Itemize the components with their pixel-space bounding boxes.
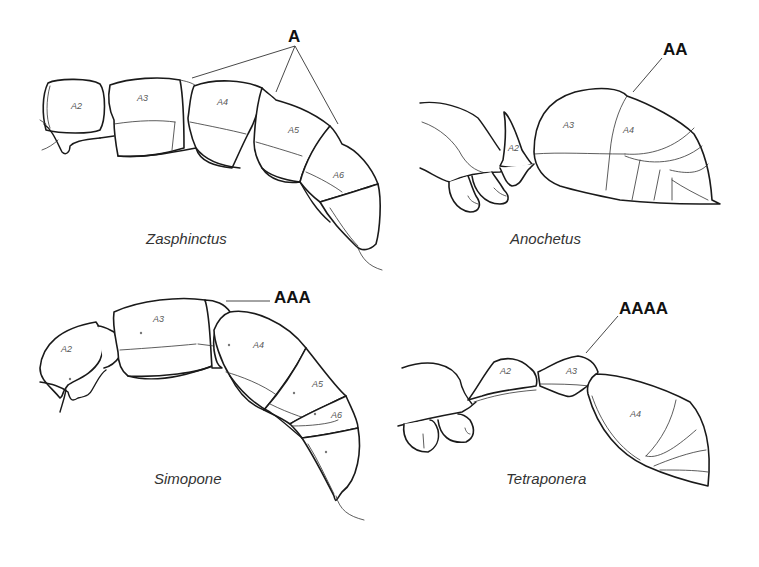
annotation-label-a: A	[288, 27, 300, 46]
segment-label: A3	[152, 314, 164, 324]
segment-label: A3	[136, 93, 148, 103]
annotation-label-aaa: AAA	[274, 288, 311, 307]
panel-tetraponera: AAAA A2 A3 A4 Tetraponera	[398, 299, 709, 487]
segment-a4-shape	[188, 81, 262, 168]
coxa-shape	[404, 420, 439, 452]
figure-canvas: A A2 A3 A4 A5 A6 Zasphinctus AA A2 A3 A4	[0, 0, 759, 567]
segment-a4-shape	[587, 374, 709, 486]
segment-a7-shape	[302, 428, 359, 500]
annotation-label-aa: AA	[663, 40, 688, 59]
gaster-shape	[534, 89, 720, 204]
segment-label: A4	[216, 97, 228, 107]
panel-zasphinctus: A A2 A3 A4 A5 A6 Zasphinctus	[40, 27, 382, 270]
segment-label: A3	[565, 366, 577, 376]
segment-label: A6	[332, 170, 344, 180]
segment-label: A3	[562, 120, 574, 130]
genus-label-simopone: Simopone	[154, 470, 222, 487]
segment-label: A4	[252, 340, 264, 350]
segment-label: A5	[311, 379, 324, 389]
segment-label: A4	[629, 409, 641, 419]
genus-label-tetraponera: Tetraponera	[506, 470, 586, 487]
panel-simopone: AAA A2 A3 A4 A5 A6 Simopone	[40, 288, 364, 520]
genus-label-zasphinctus: Zasphinctus	[145, 230, 227, 247]
genus-label-anochetus: Anochetus	[509, 230, 581, 247]
segment-label: A2	[507, 143, 519, 153]
panel-anochetus: AA A2 A3 A4 Anochetus	[420, 40, 720, 247]
segment-a2-shape	[500, 112, 532, 167]
segment-label: A5	[287, 125, 300, 135]
annotation-label-aaaa: AAAA	[619, 299, 668, 318]
segment-label: A6	[330, 410, 342, 420]
segment-label: A2	[70, 101, 82, 111]
segment-label: A4	[622, 125, 634, 135]
segment-a3-shape	[113, 299, 212, 377]
coxa-shape	[438, 414, 473, 442]
segment-label: A2	[499, 366, 511, 376]
segment-a2-shape	[468, 359, 537, 400]
segment-label: A2	[60, 344, 72, 354]
